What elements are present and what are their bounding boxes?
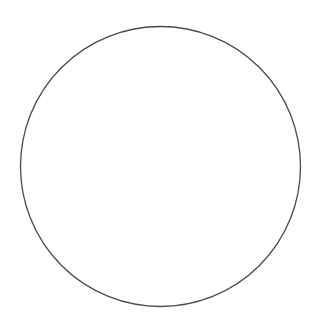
sector-circle-diagram xyxy=(0,0,321,331)
figure-root xyxy=(0,0,321,331)
circle-outline xyxy=(21,27,301,307)
